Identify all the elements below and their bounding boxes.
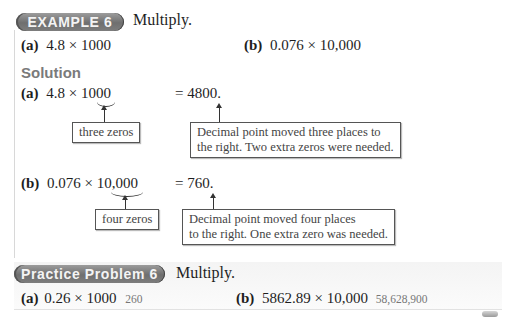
solution-step-b-expression: (b) 0.076 × 10,000 [21, 175, 138, 192]
solution-step-b-result: = 760. [175, 175, 213, 192]
practice-part-a: (a) 0.26 × 1000 260 [21, 290, 142, 307]
example-badge: EXAMPLE 6 [16, 13, 124, 31]
note-decimal-moved-four: Decimal point moved four places to the r… [182, 209, 395, 245]
part-expression: 5862.89 × 10,000 [262, 290, 368, 306]
note-line: Decimal point moved four places [189, 212, 388, 227]
note-decimal-moved-three: Decimal point moved three places to the … [190, 122, 401, 158]
practice-part-b: (b) 5862.89 × 10,000 58,628,900 [236, 290, 428, 307]
practice-badge-label: Practice Problem 6 [21, 266, 158, 282]
part-label: (b) [244, 37, 262, 53]
arrow-up-icon [219, 107, 220, 122]
note-line: to the right. One extra zero was needed. [189, 227, 388, 242]
part-expression: 0.076 × 10,000 [270, 37, 361, 53]
solution-step-a-result: = 4800. [175, 85, 221, 102]
part-label: (a) [21, 37, 39, 53]
practice-answer: 58,628,900 [376, 293, 428, 305]
example-badge-label: EXAMPLE 6 [28, 14, 113, 30]
step-expression-underbraced: 000 [88, 85, 111, 101]
solution-heading: Solution [21, 64, 81, 81]
part-expression: 4.8 × 1000 [46, 37, 111, 53]
note-three-zeros: three zeros [72, 122, 140, 143]
practice-answer: 260 [125, 293, 142, 305]
practice-badge: Practice Problem 6 [14, 265, 165, 283]
example-part-a: (a) 4.8 × 1000 [21, 37, 111, 54]
part-expression: 0.26 × 1000 [44, 290, 116, 306]
arrow-up-icon [125, 199, 126, 209]
example-part-b: (b) 0.076 × 10,000 [244, 37, 361, 54]
note-line: the right. Two extra zeros were needed. [197, 140, 394, 155]
arrow-up-icon [104, 109, 105, 122]
part-label: (b) [236, 290, 254, 306]
step-expression-prefix: 0.076 × 1 [47, 175, 104, 191]
example-instruction: Multiply. [133, 11, 192, 29]
step-label: (a) [21, 85, 39, 101]
note-line: Decimal point moved three places to [197, 125, 394, 140]
step-label: (b) [21, 175, 39, 191]
step-expression-underbraced: 0,000 [104, 175, 138, 191]
part-label: (a) [21, 290, 39, 306]
note-four-zeros: four zeros [95, 209, 159, 230]
solution-step-a-expression: (a) 4.8 × 1000 [21, 85, 111, 102]
left-margin-rule [14, 30, 15, 258]
practice-instruction: Multiply. [176, 264, 235, 282]
arrow-up-icon [213, 197, 214, 209]
step-expression-prefix: 4.8 × 1 [46, 85, 88, 101]
scroll-handle[interactable] [482, 311, 498, 317]
